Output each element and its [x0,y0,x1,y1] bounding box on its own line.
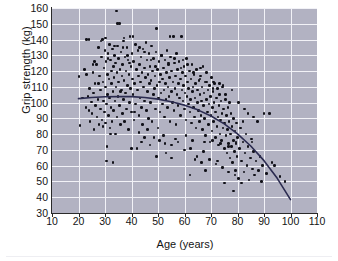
data-point [187,103,190,106]
data-point [126,46,129,49]
data-point [174,87,177,90]
data-point [170,90,173,93]
data-point [208,84,211,87]
data-point [141,123,144,126]
data-point [194,158,197,161]
data-point [160,54,163,57]
data-point [222,108,225,111]
data-point [227,145,230,148]
data-point [252,150,255,153]
data-point [123,79,126,82]
x-axis-label: Age (years) [52,238,318,250]
data-point [180,35,183,38]
data-point [176,68,179,71]
data-point [214,136,217,139]
data-point [238,147,241,150]
x-tick-label: 60 [170,216,200,227]
data-point [155,27,158,30]
y-tick-label: 60 [2,161,48,171]
data-point [90,101,93,104]
data-point [183,65,186,68]
data-point [173,62,176,65]
data-point [112,109,115,112]
data-point [259,155,262,158]
y-tick-label: 40 [2,192,48,202]
data-point [170,144,173,147]
data-point [216,87,219,90]
data-point [183,149,186,152]
data-point [132,93,135,96]
x-tick-mark [158,214,159,217]
data-point [161,78,164,81]
data-point [115,10,118,13]
data-point [187,87,190,90]
data-point [97,98,100,101]
data-point [228,101,231,104]
data-point [233,150,236,153]
data-point [160,92,163,95]
data-point [128,101,131,104]
data-point [97,82,100,85]
data-point [169,56,172,59]
data-point [122,40,125,43]
data-point [196,89,199,92]
data-point [137,49,140,52]
data-point [200,161,203,164]
gridline-vertical [79,8,80,213]
data-point [106,145,109,148]
data-point [202,65,205,68]
data-point [140,106,143,109]
data-point [194,97,197,100]
data-point [79,124,82,127]
data-point [198,120,201,123]
data-point [186,95,189,98]
data-point [214,111,217,114]
data-point [100,56,103,59]
data-point [94,82,97,85]
data-point [197,109,200,112]
data-point [163,89,166,92]
data-point [152,93,155,96]
data-point [170,157,173,160]
data-point [189,98,192,101]
x-tick-label: 50 [143,216,173,227]
x-axis-tick-labels: 102030405060708090100110 [0,216,338,234]
data-point [212,120,215,123]
data-point [118,104,121,107]
data-point [164,142,167,145]
data-point [205,71,208,74]
data-point [155,51,158,54]
data-point [225,114,228,117]
x-tick-mark [291,214,292,217]
data-point [146,59,149,62]
data-point [92,92,95,95]
data-point [164,59,167,62]
data-point [105,60,108,63]
data-point [255,160,258,163]
data-point [243,108,246,111]
data-point [218,93,221,96]
x-tick-label: 70 [196,216,226,227]
data-point [232,117,235,120]
data-point [88,87,91,90]
data-point [143,136,146,139]
data-point [195,68,198,71]
data-point [216,160,219,163]
data-point [234,174,237,177]
data-point [121,75,124,78]
data-point [204,134,207,137]
data-point [194,82,197,85]
data-point [207,89,210,92]
data-point [239,127,242,130]
data-point [180,67,183,70]
data-point [174,75,177,78]
data-point [130,147,133,150]
data-point [185,57,188,60]
y-tick-label: 100 [2,98,48,108]
y-tick-label: 150 [2,19,48,29]
data-point [219,142,222,145]
data-point [98,123,101,126]
data-point [168,95,171,98]
x-tick-label: 30 [90,216,120,227]
data-point [189,147,192,150]
